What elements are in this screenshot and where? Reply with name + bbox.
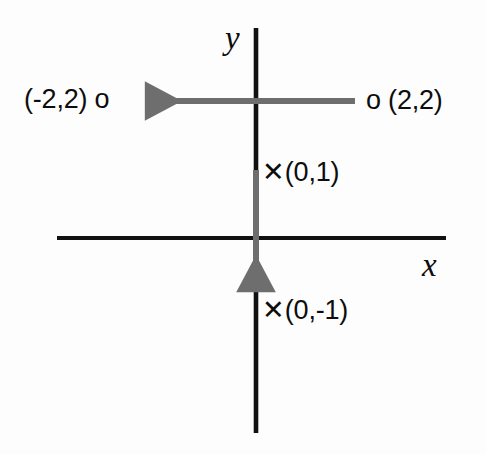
x-axis-label: x [422, 249, 437, 282]
point-label-0-neg1: ✕(0,-1) [262, 297, 348, 324]
point-label-2-2: o (2,2) [366, 87, 443, 114]
point-label-0-1: ✕(0,1) [262, 159, 339, 186]
diagram-canvas [0, 0, 486, 455]
coordinate-diagram: (-2,2) o o (2,2) ✕(0,1) ✕(0,-1) y x [0, 0, 486, 455]
y-axis-label: y [225, 22, 240, 55]
point-label-neg2-2: (-2,2) o [24, 86, 109, 113]
